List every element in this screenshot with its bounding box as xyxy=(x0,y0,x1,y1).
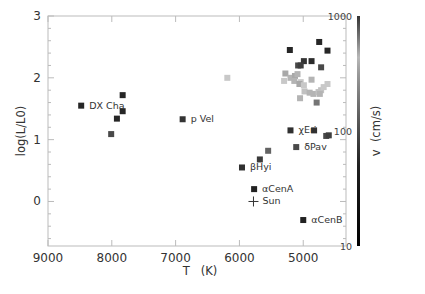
axis-tick-labels: 900080007000600050000123 xyxy=(33,9,319,265)
data-point xyxy=(120,92,126,98)
point-label: βHyi xyxy=(250,161,271,172)
data-point xyxy=(293,144,299,150)
x-tick-label: 6000 xyxy=(224,251,255,265)
data-point xyxy=(78,103,84,109)
data-point xyxy=(309,58,315,64)
y-tick-label: 2 xyxy=(33,71,41,85)
x-tick-label: 9000 xyxy=(33,251,64,265)
data-point xyxy=(291,78,297,84)
x-tick-label: 8000 xyxy=(97,251,128,265)
hr-diagram-chart: 900080007000600050000123 DX Chap VelχEri… xyxy=(0,0,425,294)
data-point xyxy=(300,217,306,223)
point-label: αCenB xyxy=(311,214,342,225)
point-label: δPav xyxy=(304,141,327,152)
colorbar-tick-label: 10 xyxy=(340,241,352,252)
point-label: αCenA xyxy=(262,183,294,194)
data-point xyxy=(310,91,316,97)
data-point-labels: DX Chap VelχEriδPavβHyiαCenAαCenBSun xyxy=(89,100,342,225)
sun-label: Sun xyxy=(262,195,280,206)
data-point xyxy=(309,77,315,83)
data-point xyxy=(114,116,120,122)
data-point xyxy=(318,64,324,70)
x-axis-title: T (K) xyxy=(182,264,218,278)
data-point xyxy=(316,39,322,45)
data-point xyxy=(301,82,307,88)
y-tick-label: 0 xyxy=(33,194,41,208)
data-point xyxy=(287,127,293,133)
data-point xyxy=(251,186,257,192)
data-point xyxy=(314,100,320,106)
point-label: p Vel xyxy=(191,113,214,124)
y-axis-title: log(L/L0) xyxy=(14,106,28,157)
colorbar-tick-label: 1000 xyxy=(328,11,352,22)
data-point xyxy=(224,75,230,81)
data-point xyxy=(239,164,245,170)
colorbar-tick-label: 100 xyxy=(334,126,352,137)
data-point xyxy=(317,91,323,97)
data-point xyxy=(282,71,288,77)
data-point xyxy=(108,131,114,137)
data-point xyxy=(297,95,303,101)
data-point xyxy=(302,88,308,94)
data-point xyxy=(281,78,287,84)
data-point xyxy=(287,47,293,53)
point-label: DX Cha xyxy=(89,100,124,111)
data-point xyxy=(324,81,330,87)
y-tick-label: 1 xyxy=(33,133,41,147)
colorbar-gradient xyxy=(357,16,360,246)
y-tick-label: 3 xyxy=(33,9,41,23)
data-point xyxy=(324,48,330,54)
x-tick-label: 5000 xyxy=(288,251,319,265)
point-label: χEri xyxy=(298,124,316,135)
data-point xyxy=(298,62,304,68)
data-points xyxy=(78,39,332,223)
colorbar-title: v (cm/s) xyxy=(369,106,383,156)
data-point xyxy=(180,116,186,122)
data-point xyxy=(326,132,332,138)
x-tick-label: 7000 xyxy=(160,251,191,265)
data-point xyxy=(265,148,271,154)
data-point xyxy=(295,71,301,77)
colorbar xyxy=(357,16,360,246)
